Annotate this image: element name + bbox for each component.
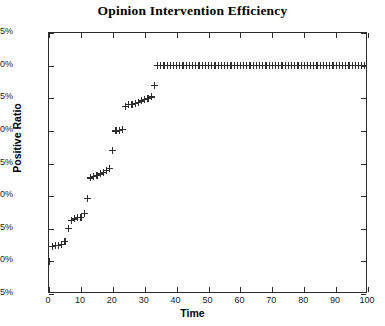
data-point-marker (52, 242, 59, 249)
data-point-marker (320, 62, 327, 69)
data-point-marker (282, 62, 289, 69)
data-point-marker (148, 93, 155, 100)
data-point-marker (317, 62, 324, 69)
data-point-marker (313, 62, 320, 69)
data-point-marker (49, 243, 56, 250)
x-tick-label: 70 (256, 295, 286, 305)
data-point-marker (349, 62, 356, 69)
data-point-marker (298, 62, 305, 69)
data-point-marker (93, 172, 100, 179)
data-point-marker (167, 62, 174, 69)
y-tick-label: 25% (0, 222, 13, 232)
x-tick-label: 60 (224, 295, 254, 305)
data-point-marker (301, 62, 308, 69)
data-point-marker (262, 62, 269, 69)
data-point-marker (275, 62, 282, 69)
chart-title: Opinion Intervention Efficiency (0, 3, 385, 19)
data-point-marker (164, 62, 171, 69)
data-point-marker (112, 127, 119, 134)
data-point-marker (339, 62, 346, 69)
data-point-marker (234, 62, 241, 69)
data-point-marker (49, 258, 53, 265)
data-point-marker (61, 238, 68, 245)
data-point-marker (138, 97, 145, 104)
x-tick-label: 10 (65, 295, 95, 305)
data-point-marker (144, 95, 151, 102)
data-point-marker (157, 62, 164, 69)
x-tick-label: 100 (352, 295, 382, 305)
data-point-marker (294, 62, 301, 69)
data-point-marker (151, 82, 158, 89)
data-point-marker (65, 225, 72, 232)
data-point-marker (125, 101, 132, 108)
data-point-marker (179, 62, 186, 69)
data-point-marker (355, 62, 362, 69)
y-tick-label: 50% (0, 59, 13, 69)
data-point-marker (58, 241, 65, 248)
data-point-marker (189, 62, 196, 69)
data-point-marker (55, 242, 62, 249)
data-point-marker (278, 62, 285, 69)
data-point-marker (173, 62, 180, 69)
data-point-marker (269, 62, 276, 69)
plot-area (48, 32, 367, 293)
data-point-marker (336, 62, 343, 69)
x-tick-label: 0 (33, 295, 63, 305)
data-point-marker (202, 62, 209, 69)
x-tick-label: 80 (288, 295, 318, 305)
data-point-marker (90, 173, 97, 180)
data-point-marker (285, 62, 292, 69)
x-tick-label: 40 (161, 295, 191, 305)
data-point-marker (243, 62, 250, 69)
chart-figure: Opinion Intervention Efficiency Positive… (0, 0, 385, 326)
data-point-marker (141, 96, 148, 103)
y-tick-label: 30% (0, 189, 13, 199)
data-point-marker (358, 62, 365, 69)
data-point-marker (291, 62, 298, 69)
data-point-marker (323, 62, 330, 69)
data-point-marker (208, 62, 215, 69)
data-point-marker (205, 62, 212, 69)
x-tick-label: 50 (193, 295, 223, 305)
data-point-marker (342, 62, 349, 69)
data-point-marker (132, 100, 139, 107)
data-point-marker (100, 169, 107, 176)
data-point-marker (170, 62, 177, 69)
data-point-marker (237, 62, 244, 69)
data-point-marker (304, 62, 311, 69)
data-point-marker (240, 62, 247, 69)
data-point-marker (195, 62, 202, 69)
data-point-marker (329, 62, 336, 69)
x-axis-title: Time (0, 307, 385, 319)
data-point-marker (326, 62, 333, 69)
data-point-marker (253, 62, 260, 69)
x-tick-label: 30 (129, 295, 159, 305)
data-point-marker (183, 62, 190, 69)
y-tick-label: 20% (0, 254, 13, 264)
data-point-marker (266, 62, 273, 69)
data-point-marker (227, 62, 234, 69)
data-point-marker (224, 62, 231, 69)
y-tick-label: 45% (0, 91, 13, 101)
data-point-marker (288, 62, 295, 69)
data-point-marker (116, 127, 123, 134)
data-point-marker (160, 62, 167, 69)
data-point-marker (74, 214, 81, 221)
y-tick-label: 15% (0, 287, 13, 297)
data-point-marker (106, 165, 113, 172)
data-point-marker (154, 62, 161, 69)
data-point-marker (250, 62, 257, 69)
data-point-marker (68, 217, 75, 224)
data-point-marker (103, 167, 110, 174)
x-tick-mark-top (368, 33, 369, 38)
y-tick-label: 40% (0, 124, 13, 134)
data-point-marker (218, 62, 225, 69)
y-tick-label: 55% (0, 26, 13, 36)
data-point-marker (84, 195, 91, 202)
x-tick-mark (368, 287, 369, 292)
data-point-marker (122, 103, 129, 110)
data-point-marker (87, 174, 94, 181)
x-tick-label: 20 (97, 295, 127, 305)
data-point-marker (361, 62, 366, 69)
data-point-marker (97, 170, 104, 177)
